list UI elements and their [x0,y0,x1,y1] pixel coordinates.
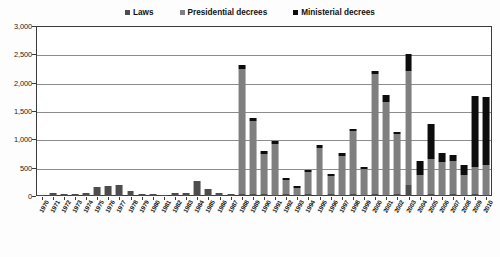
bar-stack[interactable] [216,193,223,196]
bar-segment[interactable] [316,148,323,195]
bar-segment[interactable] [60,194,67,196]
bar-segment[interactable] [438,195,445,196]
bar-segment[interactable] [383,195,390,196]
bar-stack[interactable] [127,191,134,196]
bar-stack[interactable] [472,96,479,196]
bar-segment[interactable] [149,194,156,196]
bar-stack[interactable] [283,178,290,196]
bar-segment[interactable] [338,195,345,196]
bar-segment[interactable] [483,165,490,194]
bar-segment[interactable] [83,193,90,196]
bar-stack[interactable] [350,129,357,196]
bar-segment[interactable] [427,124,434,159]
bar-segment[interactable] [105,186,112,196]
bar-segment[interactable] [49,193,56,196]
bar-segment[interactable] [38,195,45,196]
bar-segment[interactable] [238,69,245,194]
bar-stack[interactable] [138,194,145,196]
bar-stack[interactable] [38,195,45,196]
bar-stack[interactable] [160,195,167,196]
bar-stack[interactable] [238,65,245,196]
bar-stack[interactable] [327,174,334,196]
bar-segment[interactable] [249,121,256,194]
bar-stack[interactable] [405,54,412,196]
bar-stack[interactable] [172,193,179,196]
bar-stack[interactable] [338,153,345,196]
bar-segment[interactable] [327,176,334,194]
bar-segment[interactable] [294,188,301,195]
bar-segment[interactable] [305,172,312,194]
bar-stack[interactable] [60,194,67,196]
bar-segment[interactable] [327,194,334,196]
bar-segment[interactable] [394,134,401,194]
bar-stack[interactable] [116,185,123,196]
bar-segment[interactable] [283,180,290,194]
bar-stack[interactable] [71,194,78,196]
bar-segment[interactable] [416,161,423,176]
bar-segment[interactable] [338,156,345,195]
bar-stack[interactable] [49,193,56,196]
bar-segment[interactable] [272,144,279,195]
bar-segment[interactable] [416,175,423,194]
bar-segment[interactable] [350,194,357,196]
bar-stack[interactable] [272,141,279,196]
bar-segment[interactable] [160,195,167,196]
bar-segment[interactable] [405,185,412,196]
bar-segment[interactable] [427,194,434,196]
bar-stack[interactable] [450,155,457,196]
bar-segment[interactable] [116,185,123,196]
bar-stack[interactable] [94,187,101,196]
bar-stack[interactable] [249,118,256,196]
bar-stack[interactable] [361,167,368,196]
bar-stack[interactable] [483,97,490,196]
bar-segment[interactable] [261,194,268,196]
bar-segment[interactable] [216,193,223,196]
bar-stack[interactable] [394,132,401,196]
bar-segment[interactable] [272,195,279,196]
bar-stack[interactable] [205,189,212,196]
bar-segment[interactable] [138,194,145,196]
bar-segment[interactable] [472,194,479,196]
bar-segment[interactable] [383,102,390,195]
bar-stack[interactable] [149,194,156,196]
bar-segment[interactable] [183,193,190,196]
bar-segment[interactable] [205,189,212,196]
bar-segment[interactable] [472,167,479,194]
bar-segment[interactable] [394,194,401,196]
bar-stack[interactable] [316,145,323,196]
bar-stack[interactable] [105,186,112,196]
bar-segment[interactable] [261,154,268,195]
bar-stack[interactable] [83,193,90,196]
bar-segment[interactable] [472,96,479,167]
bar-segment[interactable] [427,159,434,194]
bar-segment[interactable] [71,194,78,196]
bar-segment[interactable] [416,195,423,196]
bar-stack[interactable] [183,193,190,196]
bar-segment[interactable] [127,191,134,196]
bar-segment[interactable] [316,195,323,196]
bar-segment[interactable] [305,194,312,196]
bar-segment[interactable] [249,194,256,196]
bar-segment[interactable] [483,195,490,196]
bar-segment[interactable] [94,187,101,196]
bar-segment[interactable] [461,195,468,196]
bar-segment[interactable] [438,162,445,195]
bar-segment[interactable] [283,194,290,196]
bar-stack[interactable] [427,124,434,196]
bar-segment[interactable] [450,161,457,194]
bar-stack[interactable] [294,186,301,196]
bar-stack[interactable] [372,71,379,196]
bar-segment[interactable] [194,181,201,196]
bar-segment[interactable] [450,194,457,196]
bar-segment[interactable] [405,54,412,72]
bar-stack[interactable] [227,194,234,196]
bar-segment[interactable] [350,131,357,194]
bar-segment[interactable] [361,195,368,196]
bar-stack[interactable] [383,95,390,196]
bar-segment[interactable] [238,194,245,196]
bar-segment[interactable] [361,169,368,195]
bar-segment[interactable] [483,97,490,165]
bar-segment[interactable] [372,74,379,194]
bar-segment[interactable] [405,71,412,185]
bar-segment[interactable] [294,195,301,196]
